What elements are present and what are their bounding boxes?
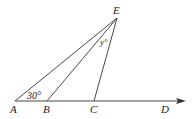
label-d: D xyxy=(160,103,169,115)
diagram-canvas: E A B C D 30° y° xyxy=(0,0,193,119)
label-c: C xyxy=(90,103,98,115)
label-b: B xyxy=(43,103,50,115)
angle-a-label: 30° xyxy=(26,90,41,101)
label-e: E xyxy=(112,4,120,16)
angle-e-label: y° xyxy=(99,37,108,47)
segment-be xyxy=(47,18,117,101)
label-a: A xyxy=(9,103,17,115)
segment-ce xyxy=(94,18,117,101)
geometry-diagram: E A B C D 30° y° xyxy=(0,0,193,119)
segment-ae xyxy=(15,18,117,101)
